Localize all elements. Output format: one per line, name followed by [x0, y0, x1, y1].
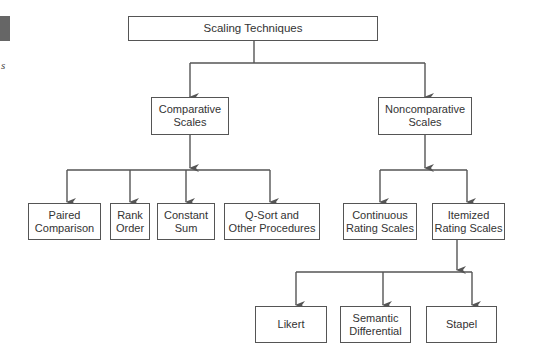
node-rank-order: Rank Order — [110, 203, 150, 240]
node-q-sort: Q-Sort and Other Procedures — [224, 203, 320, 240]
node-constant-sum: Constant Sum — [157, 203, 215, 240]
node-itemized-rating-scales: Itemized Rating Scales — [432, 203, 505, 240]
node-likert: Likert — [255, 306, 327, 343]
node-continuous-rating-scales: Continuous Rating Scales — [343, 203, 417, 240]
node-noncomparative-scales: Noncomparative Scales — [378, 97, 472, 135]
node-scaling-techniques: Scaling Techniques — [128, 16, 378, 41]
node-paired-comparison: Paired Comparison — [28, 203, 101, 240]
node-stapel: Stapel — [426, 306, 497, 343]
node-semantic-differential: Semantic Differential — [340, 306, 411, 343]
node-comparative-scales: Comparative Scales — [151, 97, 229, 135]
